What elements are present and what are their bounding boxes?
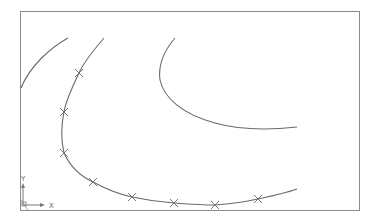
ucs-x-label: X — [49, 202, 54, 210]
drawing-viewport[interactable]: Y X — [0, 0, 378, 221]
viewport-frame — [21, 12, 360, 211]
ucs-y-label: Y — [20, 175, 26, 183]
